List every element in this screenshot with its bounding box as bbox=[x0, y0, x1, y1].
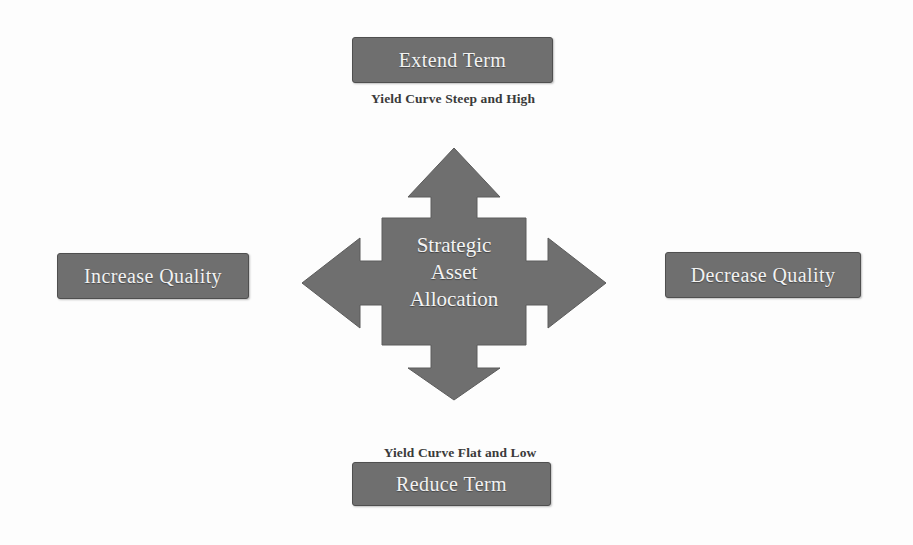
four-way-arrow-shape bbox=[296, 142, 612, 406]
node-box-decrease-quality[interactable]: Decrease Quality bbox=[665, 252, 861, 298]
diagram-canvas: Extend Term Yield Curve Steep and High I… bbox=[0, 0, 913, 545]
node-caption-yield-curve-steep-and-high: Yield Curve Steep and High bbox=[313, 91, 593, 107]
node-caption-yield-curve-flat-and-low: Yield Curve Flat and Low bbox=[320, 445, 600, 461]
node-label-reduce-term: Reduce Term bbox=[396, 474, 507, 494]
node-label-increase-quality: Increase Quality bbox=[84, 266, 222, 286]
node-label-extend-term: Extend Term bbox=[399, 50, 507, 70]
node-box-extend-term[interactable]: Extend Term bbox=[352, 37, 553, 83]
node-box-increase-quality[interactable]: Increase Quality bbox=[57, 253, 249, 299]
node-box-reduce-term[interactable]: Reduce Term bbox=[352, 462, 551, 506]
quad-arrow-polygon bbox=[302, 148, 606, 400]
four-way-arrow-icon bbox=[296, 142, 612, 406]
node-label-decrease-quality: Decrease Quality bbox=[691, 265, 836, 285]
